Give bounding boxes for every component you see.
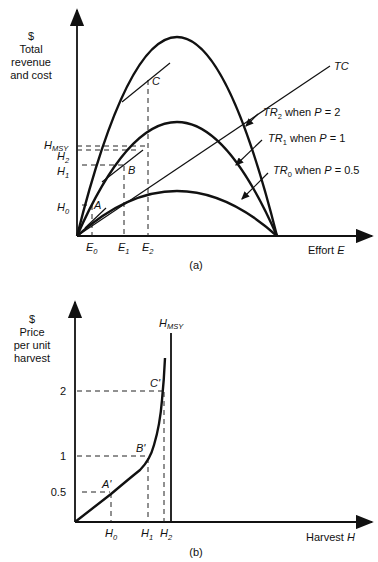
y-tick-05: 0.5 — [51, 486, 66, 498]
hmsy-label-b: HMSY — [159, 317, 184, 331]
point-b-prime: B' — [136, 442, 146, 454]
tr1-curve — [77, 122, 277, 236]
y-tick-1: 1 — [60, 450, 66, 462]
y-tick-2: 2 — [60, 385, 66, 397]
point-a: A — [93, 199, 101, 211]
y-tick-h0: H0 — [57, 201, 70, 216]
panel-a: $ Total revenue and cost C B A HMSY H2 H… — [10, 10, 372, 271]
fishery-diagram: $ Total revenue and cost C B A HMSY H2 H… — [0, 0, 378, 562]
x-tick-e2: E2 — [142, 241, 154, 256]
y-axis-label-a-2: revenue — [11, 56, 51, 68]
x-tick-h1: H1 — [141, 527, 153, 542]
tr0-curve — [77, 191, 277, 236]
tr1-arrow — [236, 140, 262, 165]
y-axis-label-b-0: $ — [29, 313, 35, 325]
y-axis-label-a-1: Total — [19, 43, 42, 55]
tr1-label: TR1 when P = 1 — [268, 132, 345, 147]
x-tick-e1: E1 — [118, 241, 130, 256]
point-a-prime: A' — [101, 478, 112, 490]
tr0-label: TR0 when P = 0.5 — [273, 164, 359, 179]
tc-line — [77, 66, 330, 236]
y-axis-label-a-0: $ — [28, 30, 34, 42]
panel-b: $ Price per unit harvest HMSY 2 1 0.5 C'… — [14, 302, 372, 558]
point-b: B — [128, 164, 135, 176]
x-axis-label-a: Effort E — [308, 244, 345, 256]
tr2-label: TR2 when P = 2 — [263, 106, 340, 121]
y-tick-h1: H1 — [57, 165, 69, 180]
point-c-prime: C' — [150, 377, 161, 389]
point-c: C — [152, 75, 160, 87]
x-tick-e0: E0 — [86, 241, 98, 256]
y-axis-label-b-2: per unit — [14, 339, 51, 351]
tc-label: TC — [334, 60, 349, 72]
y-axis-label-b-3: harvest — [14, 352, 50, 364]
y-axis-label-b-1: Price — [19, 326, 44, 338]
y-axis-label-a-3: and cost — [10, 69, 52, 81]
caption-a: (a) — [189, 259, 202, 271]
tr2-arrow — [246, 114, 258, 126]
x-tick-h2: H2 — [160, 527, 173, 542]
caption-b: (b) — [189, 546, 202, 558]
x-tick-h0: H0 — [105, 527, 118, 542]
tr2-curve — [77, 37, 277, 236]
x-axis-label-b: Harvest H — [306, 531, 355, 543]
